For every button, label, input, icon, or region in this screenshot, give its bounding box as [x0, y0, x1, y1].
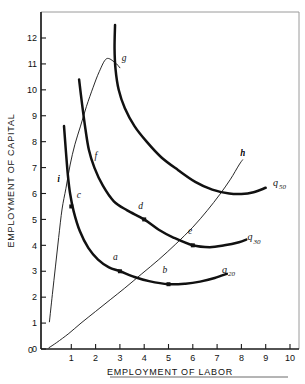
y-tick-label-7: 7: [32, 163, 37, 173]
y-tick-label-9: 9: [32, 111, 37, 121]
curve-ridge-line: [49, 58, 119, 321]
x-tick-label-0: 0: [28, 345, 33, 355]
curve-label-q30: q30: [247, 231, 261, 246]
curve-label-text-q50: q: [273, 177, 278, 188]
curve-q50: [115, 25, 266, 194]
isoquant-figure: 0123456789101112012345678910q20q30q50hia…: [0, 0, 305, 384]
data-point-marker-e[interactable]: [191, 243, 195, 247]
curve-label-text-q30: q: [247, 231, 252, 242]
x-tick-label-10: 10: [285, 353, 295, 363]
data-point-label-f: f: [94, 151, 98, 161]
y-tick-label-8: 8: [32, 137, 37, 147]
data-point-label-g: g: [122, 53, 127, 63]
x-tick-label-9: 9: [263, 353, 268, 363]
curve-label-q50: q50: [273, 177, 287, 192]
x-tick-label-1: 1: [69, 353, 74, 363]
x-tick-label-5: 5: [166, 353, 171, 363]
data-point-label-b: b: [162, 265, 167, 275]
y-tick-label-12: 12: [27, 33, 37, 43]
y-tick-label-1: 1: [32, 318, 37, 328]
curve-label-sub-q30: 30: [252, 238, 261, 246]
data-point-label-d: d: [138, 201, 143, 211]
x-tick-label-7: 7: [215, 353, 220, 363]
y-tick-label-11: 11: [28, 59, 37, 69]
data-point-label-a: a: [113, 252, 118, 262]
y-tick-label-3: 3: [32, 266, 37, 276]
data-point-label-h: h: [240, 148, 245, 158]
y-axis-title: EMPLOYMENT OF CAPITAL: [6, 114, 16, 248]
x-axis-title: EMPLOYMENT OF LABOR: [107, 367, 233, 377]
curve-expansion-path: [49, 160, 243, 348]
isoquant-chart-svg: 0123456789101112012345678910q20q30q50hia…: [0, 0, 305, 384]
curve-label-text-q20: q: [222, 264, 227, 275]
x-tick-label-3: 3: [117, 353, 122, 363]
y-tick-label-4: 4: [32, 241, 37, 251]
x-tick-label-8: 8: [239, 353, 244, 363]
y-tick-label-6: 6: [32, 189, 37, 199]
data-point-label-i: i: [57, 174, 60, 184]
data-point-marker-a[interactable]: [118, 269, 122, 273]
y-tick-label-2: 2: [32, 292, 37, 302]
x-tick-label-4: 4: [142, 353, 147, 363]
data-point-marker-c[interactable]: [69, 204, 73, 208]
y-tick-label-10: 10: [27, 85, 37, 95]
data-point-label-e: e: [188, 226, 192, 236]
data-point-label-c: c: [77, 190, 82, 200]
curve-q30: [79, 79, 246, 247]
x-tick-label-2: 2: [93, 353, 98, 363]
y-tick-label-5: 5: [32, 215, 37, 225]
plot-frame: [41, 12, 299, 349]
data-point-marker-b[interactable]: [167, 282, 171, 286]
curve-label-sub-q50: 50: [279, 183, 287, 191]
curve-label-sub-q20: 20: [228, 270, 236, 278]
data-point-marker-d[interactable]: [142, 217, 146, 221]
x-tick-label-6: 6: [190, 353, 195, 363]
